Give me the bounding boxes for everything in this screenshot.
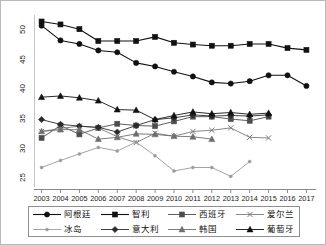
legend-label: 爱尔兰 bbox=[267, 209, 294, 220]
legend-label: 韩国 bbox=[199, 224, 217, 235]
y-axis-tick-label: 50 bbox=[18, 21, 27, 39]
x-axis-tick-label: 2012 bbox=[204, 194, 220, 203]
legend-item-6[interactable]: 韩国 bbox=[164, 222, 232, 237]
x-axis-tick-label: 2014 bbox=[242, 194, 258, 203]
legend-marker-icon bbox=[100, 209, 130, 220]
legend-item-4[interactable]: 冰岛 bbox=[29, 222, 97, 237]
x-axis-tick-label: 2006 bbox=[90, 194, 106, 203]
legend-marker-icon bbox=[235, 224, 265, 235]
x-axis-tick-label: 2011 bbox=[185, 194, 201, 203]
x-axis-tick-label: 2005 bbox=[71, 194, 87, 203]
y-axis-tick-label: 30 bbox=[18, 139, 27, 157]
legend-item-2[interactable]: 西班牙 bbox=[164, 207, 232, 222]
series-1 bbox=[39, 19, 309, 52]
legend-label: 智利 bbox=[132, 209, 150, 220]
line-chart-canvas bbox=[34, 15, 320, 187]
legend-marker-icon bbox=[32, 224, 62, 235]
x-axis-tick-label: 2013 bbox=[223, 194, 239, 203]
legend-label: 意大利 bbox=[132, 224, 159, 235]
x-axis-tick-label: 2017 bbox=[298, 194, 314, 203]
x-axis-tick-label: 2003 bbox=[33, 194, 49, 203]
series-7 bbox=[39, 93, 272, 122]
series-0 bbox=[39, 23, 309, 88]
x-axis-tick-label: 2008 bbox=[128, 194, 144, 203]
legend-label: 西班牙 bbox=[199, 209, 226, 220]
legend-marker-icon bbox=[167, 224, 197, 235]
x-axis: 2003200420052006200720082009201020112012… bbox=[34, 189, 320, 201]
x-axis-tick-label: 2015 bbox=[260, 194, 276, 203]
y-axis-tick-label: 25 bbox=[18, 169, 27, 187]
x-axis-tick-label: 2010 bbox=[166, 194, 182, 203]
legend-item-0[interactable]: 阿根廷 bbox=[29, 207, 97, 222]
legend-label: 冰岛 bbox=[64, 224, 82, 235]
legend-row: 阿根廷智利西班牙爱尔兰 bbox=[29, 207, 299, 222]
x-axis-tick-label: 2016 bbox=[279, 194, 295, 203]
x-axis-tick-label: 2007 bbox=[109, 194, 125, 203]
x-axis-tick-label: 2009 bbox=[147, 194, 163, 203]
legend-label: 葡萄牙 bbox=[267, 224, 294, 235]
legend-item-7[interactable]: 葡萄牙 bbox=[232, 222, 300, 237]
legend-marker-icon bbox=[235, 209, 265, 220]
legend-item-5[interactable]: 意大利 bbox=[97, 222, 165, 237]
y-axis-tick-label: 40 bbox=[18, 80, 27, 98]
y-axis-tick-label: 45 bbox=[18, 50, 27, 68]
legend-marker-icon bbox=[167, 209, 197, 220]
legend-item-1[interactable]: 智利 bbox=[97, 207, 165, 222]
legend-row: 冰岛意大利韩国葡萄牙 bbox=[29, 222, 299, 237]
legend-item-3[interactable]: 爱尔兰 bbox=[232, 207, 300, 222]
chart-figure: 253035404550 200320042005200620072008200… bbox=[0, 0, 326, 245]
y-axis-tick-label: 35 bbox=[18, 110, 27, 128]
legend-marker-icon bbox=[32, 209, 62, 220]
plot-area bbox=[34, 15, 320, 187]
series-4 bbox=[40, 141, 251, 178]
legend-label: 阿根廷 bbox=[64, 209, 91, 220]
chart-legend: 阿根廷智利西班牙爱尔兰冰岛意大利韩国葡萄牙 bbox=[28, 206, 300, 237]
legend-marker-icon bbox=[100, 224, 130, 235]
x-axis-tick-label: 2004 bbox=[52, 194, 68, 203]
